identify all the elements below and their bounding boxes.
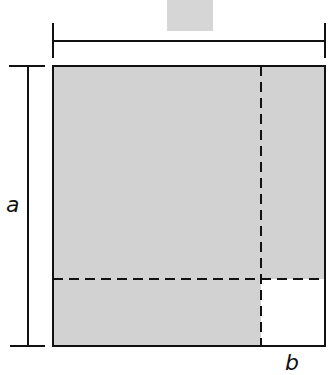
diagram-canvas (0, 0, 335, 375)
corner-square-b (261, 279, 325, 346)
top-shaded-block (167, 0, 213, 31)
label-b: b (285, 352, 299, 374)
label-a: a (6, 194, 19, 216)
